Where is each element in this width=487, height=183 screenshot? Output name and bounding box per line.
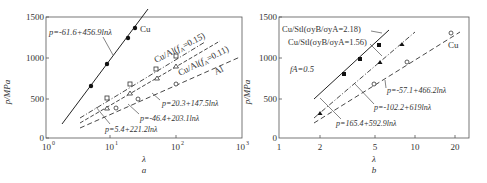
ytick-a-1000: 1000 [26, 53, 45, 63]
svg-text:10: 10 [171, 142, 181, 152]
xtick-b-20: 20 [451, 142, 461, 152]
label-stl156-b: Cu/Stl(σyB/σyA=1.56) [288, 37, 367, 47]
chart-b: 1500 1000 500 0 1 2 5 10 20 p/MPa λ b Cu… [242, 12, 469, 175]
svg-text:10: 10 [236, 142, 246, 152]
svg-text:10: 10 [105, 142, 115, 152]
fit-cu-a: p=-61.6+456.9lnλ [48, 27, 112, 37]
xtick-b-5: 5 [373, 142, 378, 152]
svg-text:0: 0 [52, 140, 55, 146]
xtick-a-1: 101 [105, 140, 118, 152]
line-cual11-a [80, 41, 220, 123]
xtick-b-1: 1 [277, 142, 282, 152]
ylabel-b: p/MPa [242, 79, 252, 105]
xtick-b-10: 10 [411, 142, 421, 152]
ylabel-a: p/MPa [2, 79, 12, 105]
fit-cual11-a: p=5.4+221.2lnλ [104, 125, 158, 134]
xtick-b-2: 2 [318, 142, 323, 152]
ytick-b-1000: 1000 [259, 53, 278, 63]
fit-stl156-b: p=-102.2+619lnλ [373, 103, 432, 112]
ytick-a-500: 500 [31, 94, 45, 104]
caption-b: b [372, 165, 377, 175]
label-al-a: Al [212, 64, 225, 77]
xtick-a-2: 102 [171, 140, 184, 152]
chart-a: 1500 1000 500 0 100 101 102 103 p/MPa λ … [2, 9, 249, 175]
fit-cual15-a: p=-46.4+203.1lnλ [139, 114, 200, 123]
fit-stl218-b: p=165.4+592.9lnλ [335, 119, 397, 128]
fit-cu-b: p=-57.1+466.2lnλ [386, 86, 447, 95]
markers-stl218-b [342, 43, 381, 76]
svg-text:2: 2 [181, 140, 184, 146]
svg-text:1: 1 [115, 140, 118, 146]
label-stl218-b: Cu/Stl(σyB/σyA=2.18) [282, 24, 361, 34]
xlabel-b: λ [371, 154, 376, 164]
ytick-a-1500: 1500 [26, 12, 45, 22]
label-fa-b: fA=0.5 [290, 64, 314, 74]
fit-al-a: p=20.3+147.5lnλ [161, 99, 219, 108]
ytick-b-500: 500 [264, 94, 278, 104]
svg-text:10: 10 [42, 142, 52, 152]
xtick-a-3: 103 [236, 140, 249, 152]
markers-cual15-a [105, 54, 178, 100]
ytick-b-1500: 1500 [259, 12, 278, 22]
figure: 1500 1000 500 0 100 101 102 103 p/MPa λ … [0, 0, 487, 183]
xlabel-a: λ [141, 154, 146, 164]
xtick-a-0: 100 [42, 140, 55, 152]
label-cu-b: Cu [448, 40, 459, 50]
svg-text:3: 3 [246, 140, 249, 146]
caption-a: a [142, 165, 147, 175]
label-cu-a: Cu [140, 24, 151, 34]
